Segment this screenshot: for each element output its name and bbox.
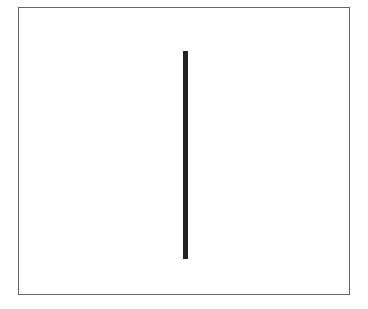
vertical-line	[183, 51, 188, 259]
